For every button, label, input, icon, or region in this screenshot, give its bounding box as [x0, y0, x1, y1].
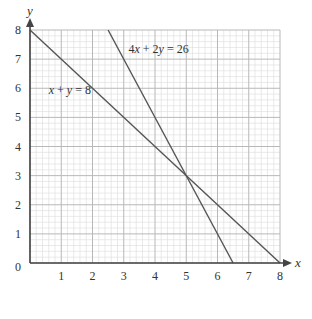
y-tick-label: 2 — [15, 198, 21, 212]
x-tick-label: 6 — [215, 269, 221, 283]
line-label-1: x + y = 8 — [48, 83, 91, 97]
y-tick-label: 6 — [15, 81, 21, 95]
y-tick-labels: 012345678 — [15, 23, 21, 274]
y-tick-label: 3 — [15, 169, 21, 183]
y-tick-label: 5 — [15, 110, 21, 124]
line-label-2: 4x + 2y = 26 — [128, 42, 188, 56]
x-tick-label: 8 — [277, 269, 283, 283]
y-tick-label: 7 — [15, 52, 21, 66]
x-tick-label: 1 — [58, 269, 64, 283]
x-tick-label: 2 — [90, 269, 96, 283]
x-tick-label: 5 — [183, 269, 189, 283]
x-tick-label: 3 — [121, 269, 127, 283]
y-tick-label: 4 — [15, 140, 21, 154]
x-axis-arrow-icon — [283, 259, 292, 267]
x-tick-label: 7 — [246, 269, 252, 283]
y-axis-arrow-icon — [26, 18, 34, 27]
x-tick-label: 4 — [152, 269, 158, 283]
x-axis-label: x — [294, 255, 301, 270]
x-tick-labels: 12345678 — [58, 269, 283, 283]
linear-equations-chart: x y 12345678 012345678 x + y = 84x + 2y … — [0, 0, 312, 319]
y-axis-label: y — [25, 3, 33, 18]
y-tick-label: 0 — [15, 260, 21, 274]
y-tick-label: 1 — [15, 227, 21, 241]
y-tick-label: 8 — [15, 23, 21, 37]
